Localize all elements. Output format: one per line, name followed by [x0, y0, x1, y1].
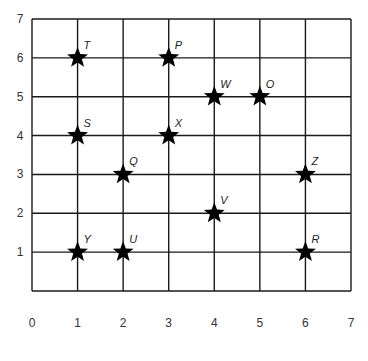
- x-tick-label: 3: [165, 316, 172, 330]
- point-y: Y: [67, 233, 91, 261]
- point-t: T: [67, 39, 91, 67]
- y-tick-label: 1: [17, 245, 24, 259]
- point-p: P: [158, 39, 182, 67]
- coordinate-grid-chart: 01234567 1234567 TPWOSXQZVYUR: [0, 0, 368, 361]
- point-x: X: [158, 117, 182, 145]
- point-label: W: [220, 78, 232, 90]
- point-label: U: [129, 233, 137, 245]
- x-tick-label: 4: [211, 316, 218, 330]
- point-label: P: [175, 39, 183, 51]
- point-label: X: [174, 117, 183, 129]
- x-axis-tick-labels: 01234567: [29, 316, 355, 330]
- y-axis-tick-labels: 1234567: [17, 12, 24, 259]
- point-z: Z: [295, 155, 319, 183]
- point-v: V: [204, 194, 229, 222]
- point-label: Z: [310, 155, 319, 167]
- x-tick-label: 0: [29, 316, 36, 330]
- x-tick-label: 5: [257, 316, 264, 330]
- y-tick-label: 2: [17, 206, 24, 220]
- point-s: S: [67, 117, 91, 145]
- y-tick-label: 6: [17, 51, 24, 65]
- point-label: O: [266, 78, 275, 90]
- point-label: V: [220, 194, 229, 206]
- point-r: R: [295, 233, 319, 261]
- point-label: Y: [84, 233, 92, 245]
- point-label: T: [84, 39, 92, 51]
- point-label: Q: [129, 155, 138, 167]
- point-o: O: [249, 78, 274, 106]
- x-tick-label: 1: [74, 316, 81, 330]
- point-q: Q: [113, 155, 138, 183]
- y-tick-label: 7: [17, 12, 24, 26]
- y-tick-label: 4: [17, 129, 24, 143]
- point-w: W: [204, 78, 232, 106]
- point-label: S: [84, 117, 92, 129]
- y-tick-label: 5: [17, 90, 24, 104]
- plotted-points: TPWOSXQZVYUR: [67, 39, 319, 261]
- point-u: U: [113, 233, 137, 261]
- x-tick-label: 7: [348, 316, 355, 330]
- point-label: R: [311, 233, 319, 245]
- x-tick-label: 6: [302, 316, 309, 330]
- x-tick-label: 2: [120, 316, 127, 330]
- y-tick-label: 3: [17, 167, 24, 181]
